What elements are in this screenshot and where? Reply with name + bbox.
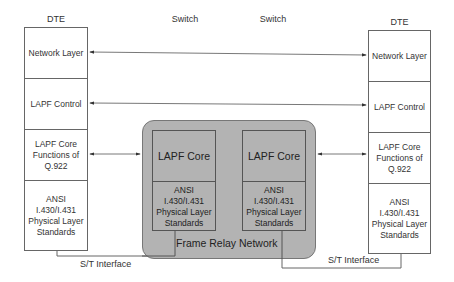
network-layer-arrow [90,52,366,55]
lapf-control-arrow [90,103,366,105]
protocol-arrows [0,0,454,282]
left-st-interface-label: S/T Interface [80,259,131,269]
right-st-interface-label: S/T Interface [328,255,379,265]
